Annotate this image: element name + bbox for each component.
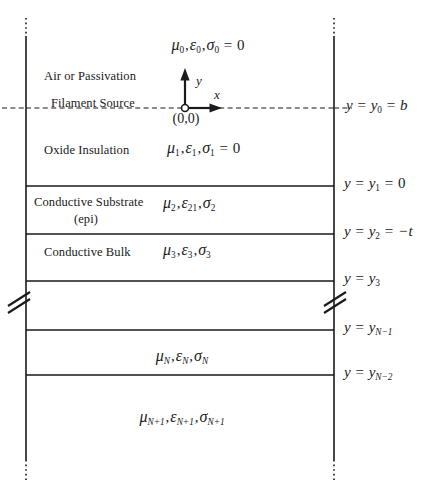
origin-label: (0,0) xyxy=(173,112,200,126)
layer-2-constitutive-params: μ2,ε21,σ2 xyxy=(163,195,215,211)
boundary-label-y3: y = y3 xyxy=(344,271,380,286)
filament-source-label: Filament Source xyxy=(51,97,135,110)
x-axis-arrowhead xyxy=(210,103,223,112)
layer-0-material-label: Air or Passivation xyxy=(44,70,136,83)
layer-2-material-sublabel: (epi) xyxy=(74,213,98,226)
boundary-label-y2: y = y2 = −t xyxy=(344,224,413,239)
layer-N-constitutive-params: μN,εN,σN xyxy=(156,348,208,364)
boundary-label-yN-2: y = yN−2 xyxy=(344,365,392,380)
boundary-label-y1: y = y1 = 0 xyxy=(344,176,405,191)
axis-break-icon-right xyxy=(324,292,346,313)
layer-3-constitutive-params: μ3,ε3,σ3 xyxy=(163,242,211,258)
boundary-label-y0: y = y0 = b xyxy=(346,98,407,113)
y-axis-arrowhead xyxy=(180,68,189,81)
figure-canvas: y x (0,0) μ0,ε0,σ0 = 0 Air or Passivatio… xyxy=(0,0,429,495)
layer-0-constitutive-params: μ0,ε0,σ0 = 0 xyxy=(171,37,244,53)
y-axis-label: y xyxy=(196,74,202,87)
layer-N-plus-1-constitutive-params: μN+1,εN+1,σN+1 xyxy=(139,409,224,425)
layer-1-material-label: Oxide Insulation xyxy=(44,144,129,157)
x-axis-label: x xyxy=(214,88,220,101)
layer-2-material-label: Conductive Substrate xyxy=(34,196,143,209)
layer-3-material-label: Conductive Bulk xyxy=(44,246,131,259)
layer-1-constitutive-params: μ1,ε1,σ1 = 0 xyxy=(167,140,240,156)
boundary-label-yN-1: y = yN−1 xyxy=(344,320,392,335)
